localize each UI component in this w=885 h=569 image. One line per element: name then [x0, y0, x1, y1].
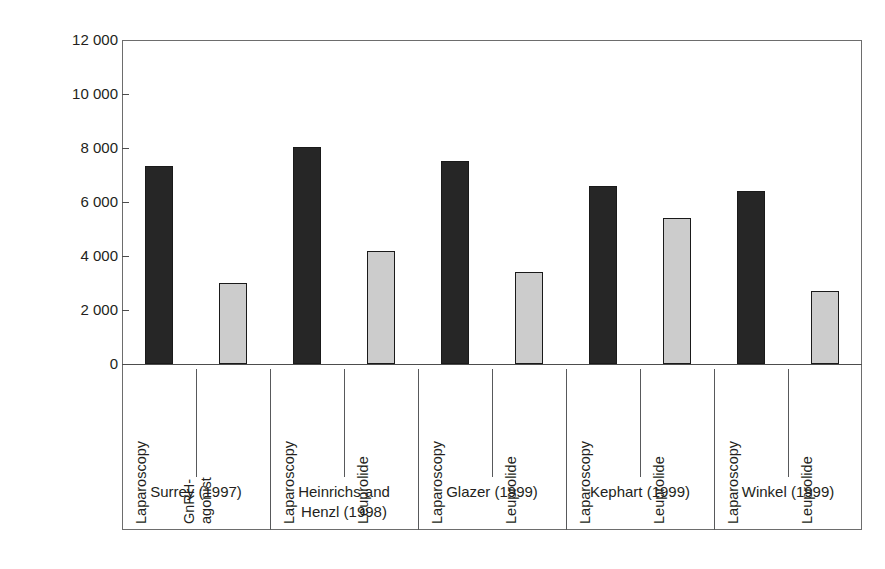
- group-label-line: Glazer (1999): [418, 482, 566, 502]
- bar-chart-figure: Cost per patient (US$) 12 00010 0008 000…: [0, 0, 885, 569]
- bar-slot: [714, 40, 788, 364]
- bar-slot: [566, 40, 640, 364]
- y-tick-label: 2 000: [40, 303, 118, 317]
- bar[interactable]: [219, 283, 247, 364]
- bar[interactable]: [663, 218, 691, 364]
- bar-slot: [418, 40, 492, 364]
- y-tick-mark: [122, 148, 129, 149]
- bar-slot: [196, 40, 270, 364]
- group-label-line: Winkel (1999): [714, 482, 862, 502]
- bar[interactable]: [811, 291, 839, 364]
- y-tick-label: 8 000: [40, 141, 118, 155]
- bar[interactable]: [293, 147, 321, 364]
- bar-slot: [270, 40, 344, 364]
- y-tick-mark: [122, 256, 129, 257]
- bar-slot: [640, 40, 714, 364]
- y-tick-mark: [122, 94, 129, 95]
- bar-slot: [122, 40, 196, 364]
- group-label: Kephart (1999): [566, 482, 714, 502]
- bar-slot: [788, 40, 862, 364]
- bar-slot: [344, 40, 418, 364]
- y-tick-mark: [122, 202, 129, 203]
- y-axis-tick-labels: 12 00010 0008 0006 0004 0002 0000: [34, 0, 118, 569]
- group-label: Glazer (1999): [418, 482, 566, 502]
- group-label-line: Heinrichs and: [270, 482, 418, 502]
- y-tick-label: 12 000: [40, 33, 118, 47]
- y-tick-label: 0: [40, 357, 118, 371]
- bars-layer: [122, 40, 862, 364]
- y-tick-label: 10 000: [40, 87, 118, 101]
- bar[interactable]: [515, 272, 543, 364]
- group-label: Winkel (1999): [714, 482, 862, 502]
- y-tick-mark: [122, 310, 129, 311]
- group-labels-layer: Surrey (1997)Heinrichs andHenzl (1998)Gl…: [122, 473, 862, 530]
- group-label: Heinrichs andHenzl (1998): [270, 482, 418, 522]
- group-label: Surrey (1997): [122, 482, 270, 502]
- bar[interactable]: [737, 191, 765, 364]
- group-label-line: Kephart (1999): [566, 482, 714, 502]
- group-label-line: Surrey (1997): [122, 482, 270, 502]
- bar[interactable]: [367, 251, 395, 364]
- y-tick-label: 4 000: [40, 249, 118, 263]
- y-tick-label: 6 000: [40, 195, 118, 209]
- bar-slot: [492, 40, 566, 364]
- group-label-line: Henzl (1998): [270, 502, 418, 522]
- bar[interactable]: [145, 166, 173, 364]
- bar[interactable]: [441, 161, 469, 364]
- bar[interactable]: [589, 186, 617, 364]
